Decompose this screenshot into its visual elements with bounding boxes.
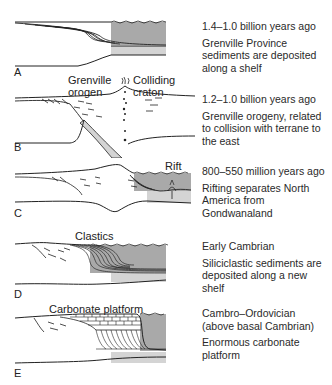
rift-label: Rift <box>165 160 182 172</box>
panel-a-cross-section <box>0 0 200 78</box>
panel-e-age: Cambro–Ordovician (above basal Cambrian) <box>202 307 330 332</box>
panel-c-description: Rifting separates North America from Gon… <box>202 182 330 220</box>
panel-c-caption: 800–550 million years ago Rifting separa… <box>202 165 330 219</box>
colliding-craton-label: Colliding craton <box>133 74 183 98</box>
grenville-orogen-label: Grenville orogen <box>68 74 120 98</box>
panel-a: A 1.4–1.0 billion years ago Grenville Pr… <box>0 0 332 78</box>
panel-d-caption: Early Cambrian Siliciclastic sediments a… <box>202 240 330 294</box>
panel-a-description: Grenville Province sediments are deposit… <box>202 37 330 75</box>
panel-b-letter: B <box>14 141 21 153</box>
panel-b-age: 1.2–1.0 billion years ago <box>202 93 330 106</box>
panel-c-age: 800–550 million years ago <box>202 165 330 178</box>
panel-e: Carbonate platform E Cambro–Ordovician (… <box>0 300 332 385</box>
panel-b-caption: 1.2–1.0 billion years ago Grenville orog… <box>202 93 330 147</box>
panel-e-letter: E <box>14 367 21 379</box>
panel-e-caption: Cambro–Ordovician (above basal Cambrian)… <box>202 307 330 361</box>
panel-d-age: Early Cambrian <box>202 240 330 253</box>
panel-a-age: 1.4–1.0 billion years ago <box>202 20 330 33</box>
panel-d: Clastics D Early Cambrian Siliciclastic … <box>0 230 332 300</box>
panel-d-description: Siliciclastic sediments are deposited al… <box>202 257 330 295</box>
panel-b: Grenville orogen Colliding craton B 1.2–… <box>0 76 332 158</box>
panel-e-description: Enormous carbonate platform <box>202 336 330 361</box>
panel-c: Rift C 800–550 million years ago Rifting… <box>0 155 332 230</box>
panel-d-letter: D <box>14 288 22 300</box>
clastics-label: Clastics <box>75 230 114 242</box>
panel-b-description: Grenville orogeny, related to collision … <box>202 110 330 148</box>
carbonate-platform-label: Carbonate platform <box>49 303 143 315</box>
panel-c-letter: C <box>14 207 22 219</box>
panel-a-caption: 1.4–1.0 billion years ago Grenville Prov… <box>202 20 330 74</box>
